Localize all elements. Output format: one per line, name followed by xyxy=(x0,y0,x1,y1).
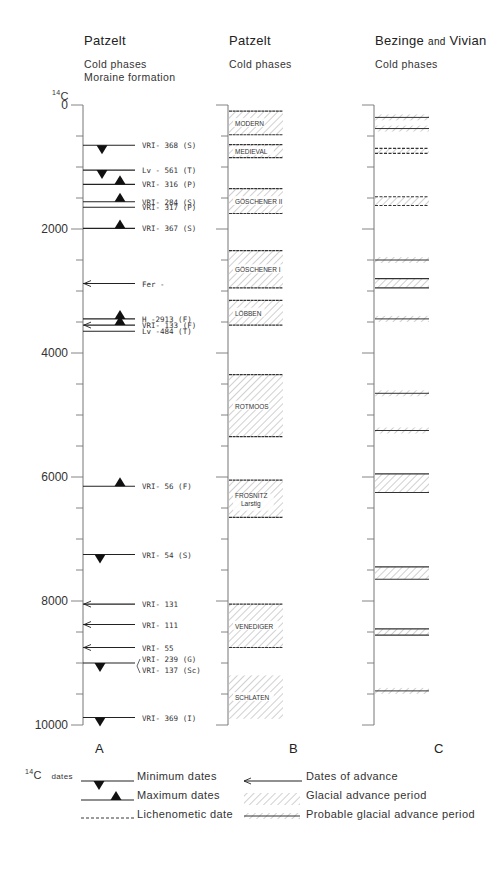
date-label: VRI- 317 (P) xyxy=(142,203,196,212)
min-date-marker-icon xyxy=(95,555,106,564)
period-label: VENEDIGER xyxy=(235,623,274,630)
glacial-period-hatch xyxy=(375,279,429,288)
legend-probable-label: Probable glacial advance period xyxy=(306,808,475,821)
min-date-marker-icon xyxy=(97,145,108,154)
axis-tick-label: 8000 xyxy=(41,594,68,608)
min-date-marker-icon xyxy=(95,663,106,672)
period-label-secondary: Larstig xyxy=(241,500,261,508)
date-label: Fer - xyxy=(142,280,165,289)
legend-max-label: Maximum dates xyxy=(137,789,220,802)
min-date-marker-icon xyxy=(95,718,106,727)
legend-glacial-hatch xyxy=(244,793,300,805)
period-label: MODERN xyxy=(235,120,264,127)
glacial-period-hatch xyxy=(375,567,429,579)
date-label: Lv - 561 (T) xyxy=(142,166,196,175)
period-label: GÖSCHENER I xyxy=(235,266,281,273)
period-label: FROSNITZ xyxy=(235,492,268,499)
date-label: VRI- 131 xyxy=(142,600,178,609)
legend-prefix-small: dates xyxy=(51,772,73,781)
date-label: Lv -484 (T) xyxy=(142,327,192,336)
date-label: VRI- 55 xyxy=(142,644,174,653)
glacial-period-hatch xyxy=(375,197,429,206)
legend-min-label: Minimum dates xyxy=(137,770,217,783)
axis-tick-label: 4000 xyxy=(41,346,68,360)
axis-tick-label: 2000 xyxy=(41,222,68,236)
chronology-diagram: 0200040006000800010000 VRI- 368 (S)Lv - … xyxy=(0,0,497,870)
legend-prefix-sup: 14 xyxy=(25,768,34,775)
date-label: VRI- 316 (P) xyxy=(142,180,196,189)
legend-max-marker-icon xyxy=(111,791,122,800)
glacial-period-hatch xyxy=(375,148,429,153)
axis-tick-label: 10000 xyxy=(35,718,69,732)
date-label: VRI- 368 (S) xyxy=(142,141,196,150)
max-date-marker-icon xyxy=(115,175,126,184)
date-label: VRI- 54 (S) xyxy=(142,551,192,560)
date-label: VRI- 137 (Sc) xyxy=(142,666,201,675)
glacial-period-hatch xyxy=(375,474,429,493)
legend-lichen-label: Lichenometic date xyxy=(137,808,233,821)
axis-tick-label: 0 xyxy=(61,98,68,112)
period-label: MEDIEVAL xyxy=(235,148,268,155)
period-label: LÖBBEN xyxy=(235,310,262,317)
legend-min-marker-icon xyxy=(94,781,105,790)
date-label: VRI- 239 (G) xyxy=(142,655,196,664)
glacial-period-hatch xyxy=(375,629,429,635)
period-label: ROTMOOS xyxy=(235,403,269,410)
min-date-marker-icon xyxy=(97,170,108,179)
date-label: VRI- 111 xyxy=(142,621,178,630)
axis-tick-label: 6000 xyxy=(41,470,68,484)
period-label: SCHLATEN xyxy=(235,694,269,701)
bracket xyxy=(137,659,140,673)
period-label: GÖSCHENER II xyxy=(235,198,283,205)
legend-arrow-label: Dates of advance xyxy=(306,770,398,783)
max-date-marker-icon xyxy=(115,477,126,486)
date-label: VRI- 56 (F) xyxy=(142,482,192,491)
max-date-marker-icon xyxy=(115,193,126,202)
date-label: VRI- 369 (I) xyxy=(142,714,196,723)
max-date-marker-icon xyxy=(115,219,126,228)
legend-prefix: 14C dates xyxy=(25,765,73,783)
legend-glacial-label: Glacial advance period xyxy=(306,789,427,802)
date-label: VRI- 367 (S) xyxy=(142,224,196,233)
legend-prefix-label: C xyxy=(34,769,42,781)
